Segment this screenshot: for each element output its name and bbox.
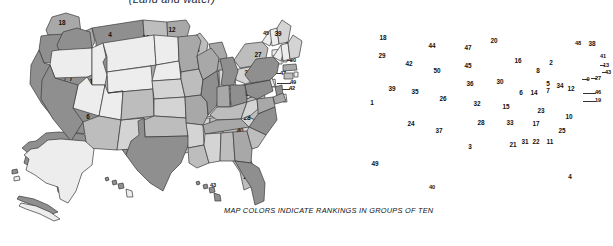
map-colors-caption: MAP COLORS INDICATE RANKINGS IN GROUPS O… bbox=[224, 206, 433, 215]
rank-label-WV: 34 bbox=[556, 83, 563, 89]
ak-aleutians bbox=[19, 203, 60, 221]
hi-isl2 bbox=[112, 180, 117, 185]
rank-label-TX: 3 bbox=[468, 144, 472, 150]
rank-label-CO: 26 bbox=[439, 96, 446, 102]
state-CT bbox=[284, 73, 293, 79]
rank-label-IN: 14 bbox=[530, 90, 537, 96]
rank-label-VT: 48 bbox=[575, 41, 581, 47]
rank-label-OK: 28 bbox=[477, 120, 484, 126]
rank-label-NH: 41 bbox=[600, 54, 606, 60]
rank-label-IA: 30 bbox=[496, 79, 503, 85]
rank-label-LA: 21 bbox=[509, 142, 516, 148]
rank-label-NV: 39 bbox=[388, 86, 395, 92]
rank-label-ID: 42 bbox=[405, 61, 412, 67]
leader-line-ne-1 bbox=[600, 65, 605, 66]
rank-label-ND: 47 bbox=[464, 45, 471, 51]
state-MA bbox=[283, 64, 297, 71]
leader-line-ne-5 bbox=[583, 93, 596, 94]
state-ND bbox=[154, 35, 179, 65]
rank-label-NY: 2 bbox=[549, 60, 553, 66]
rank-label-HI: 40 bbox=[429, 185, 435, 191]
ak-islands bbox=[14, 176, 20, 181]
state-NE bbox=[152, 79, 185, 99]
rank-label-WA: 18 bbox=[379, 35, 386, 41]
state-IN bbox=[217, 85, 230, 107]
rank-label-AL: 22 bbox=[532, 139, 539, 145]
rank-label-KY: 23 bbox=[537, 108, 544, 114]
rank-label-KS: 32 bbox=[473, 101, 480, 107]
rank-label-VA: 12 bbox=[567, 86, 574, 92]
rank-label-NM: 37 bbox=[435, 128, 442, 134]
rank-label-MT: 44 bbox=[428, 43, 435, 49]
rank-label-TN: 17 bbox=[532, 121, 539, 127]
state-PA bbox=[245, 80, 273, 99]
state-MI bbox=[220, 57, 238, 87]
rank-label-MS: 31 bbox=[521, 139, 528, 145]
rank-label-WI: 16 bbox=[514, 58, 521, 64]
rank-label-MI: 8 bbox=[536, 68, 540, 74]
state-OK bbox=[144, 116, 188, 137]
state-FL bbox=[235, 161, 265, 205]
map-figure: (Land and water) bbox=[0, 0, 613, 246]
rank-label-AZ: 24 bbox=[407, 121, 414, 127]
state-MN bbox=[178, 35, 201, 72]
leader-line-ne-4 bbox=[582, 79, 588, 80]
rank-label-IL: 6 bbox=[519, 90, 523, 96]
rank-label-NC: 10 bbox=[565, 114, 572, 120]
state-RI bbox=[294, 72, 298, 77]
rank-label-OR: 29 bbox=[378, 53, 385, 59]
leader-line-ne-6 bbox=[583, 101, 596, 102]
state-AL bbox=[220, 132, 235, 161]
state-WA bbox=[57, 28, 92, 51]
state-KS bbox=[154, 97, 186, 118]
hi-isl4 bbox=[126, 189, 133, 197]
state-HI bbox=[105, 177, 109, 181]
rank-label-MO: 15 bbox=[502, 104, 509, 110]
leader-line-ne-2 bbox=[602, 72, 607, 73]
rank-label-MN: 20 bbox=[490, 38, 497, 44]
rank-label-CA: 1 bbox=[370, 100, 374, 106]
rank-label-PA: 5 bbox=[546, 81, 550, 87]
rank-label-SD: 45 bbox=[464, 63, 471, 69]
state-AK bbox=[24, 139, 94, 203]
state-AR bbox=[186, 123, 204, 148]
rank-label-GA: 11 bbox=[547, 139, 554, 145]
rank-label-OH: 7 bbox=[546, 88, 550, 94]
rank-label-AK: 49 bbox=[371, 161, 378, 167]
state-NY bbox=[245, 57, 279, 83]
state-OR bbox=[50, 48, 92, 78]
rank-label-AR: 33 bbox=[506, 120, 513, 126]
rank-label-UT: 35 bbox=[411, 89, 418, 95]
rank-label-WY: 50 bbox=[433, 68, 440, 74]
hi-isl3 bbox=[118, 183, 124, 189]
rank-label-SC: 25 bbox=[558, 128, 565, 134]
rank-label-NE: 36 bbox=[466, 81, 473, 87]
rank-label-FL: 4 bbox=[568, 174, 572, 180]
state-IA bbox=[181, 69, 203, 97]
state-ME bbox=[288, 35, 302, 59]
leader-line-ne-3 bbox=[591, 78, 597, 79]
rank-label-ME: 38 bbox=[588, 41, 595, 47]
